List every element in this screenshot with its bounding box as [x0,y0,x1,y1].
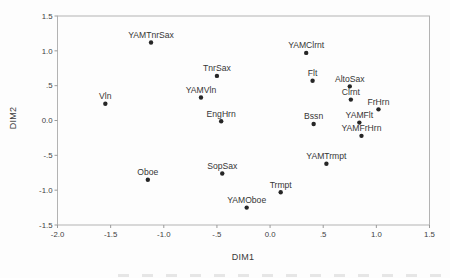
data-point-marker [149,40,153,44]
y-tick-label: 0.0 [42,116,54,125]
point-label: Oboe [137,167,158,177]
y-tick-label: 1.0 [42,47,54,56]
x-tick-label: -.5 [212,230,222,239]
point-label: SopSax [207,161,238,171]
point-label: Vln [99,91,112,101]
x-tick-label: -2.0 [51,230,65,239]
data-point-marker [311,122,315,126]
y-tick-label: .5 [46,81,53,90]
data-point-marker [244,205,248,209]
y-tick-label: -.5 [43,151,53,160]
data-point-marker [103,102,107,106]
y-tick-label: 1.5 [42,12,54,21]
mds-scatter-figure: -2.0-1.5-1.0-.50.0.51.01.51.51.0.50.0-.5… [0,0,450,278]
x-tick-label: -1.5 [104,230,118,239]
point-label: AltoSax [335,74,365,84]
point-label: FrHrn [367,97,389,107]
cropped-caption-artifact [118,274,444,277]
data-point-marker [219,119,223,123]
point-label: Flt [308,68,318,78]
y-axis-title: DIM2 [8,88,18,148]
data-point-marker [359,134,363,138]
x-tick-label: 1.5 [424,230,436,239]
point-label: Clrnt [342,87,361,97]
x-axis-title: DIM1 [163,252,323,262]
data-point-marker [324,161,328,165]
data-point-marker [220,171,224,175]
y-tick-label: -1.0 [39,186,53,195]
plot-area: -2.0-1.5-1.0-.50.0.51.01.51.51.0.50.0-.5… [0,0,450,278]
point-label: TnrSax [203,63,231,73]
data-point-marker [310,79,314,83]
point-label: YAMTrmpt [306,151,347,161]
data-point-marker [279,190,283,194]
data-point-marker [376,107,380,111]
data-point-marker [215,74,219,78]
data-point-marker [304,51,308,55]
point-label: YAMFlt [346,110,374,120]
point-label: YAMClrnt [288,40,325,50]
data-point-marker [349,97,353,101]
point-label: YAMFrHrn [342,123,382,133]
data-point-marker [199,95,203,99]
x-tick-label: 1.0 [371,230,383,239]
x-tick-label: -1.0 [157,230,171,239]
data-point-marker [146,178,150,182]
x-tick-label: 0.0 [265,230,277,239]
point-label: EngHrn [207,109,236,119]
point-label: YAMTnrSax [128,30,174,40]
y-tick-label: -1.5 [39,221,53,230]
point-label: Bssn [304,111,323,121]
x-tick-label: .5 [320,230,327,239]
point-label: YAMOboe [227,195,266,205]
point-label: YAMVln [186,85,217,95]
point-label: Trmpt [270,180,293,190]
plot-frame [58,16,430,225]
